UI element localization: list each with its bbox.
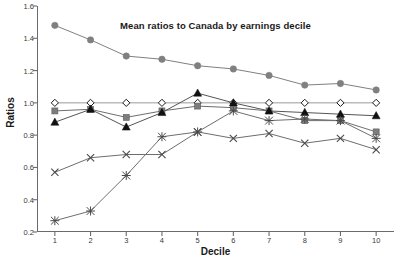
data-point-diamond-open [123,99,130,106]
data-point-circle-filled [123,53,129,59]
x-tick-label: 7 [257,236,281,245]
data-point-diamond-open [158,99,165,106]
data-point-square-filled [195,103,201,109]
series-markers-black-triangle-series [51,89,380,130]
data-point-cross-x [373,146,380,153]
chart-canvas [0,0,406,265]
data-point-diamond-open [337,99,344,106]
x-tick-label: 2 [79,236,103,245]
data-point-cross-x [51,169,58,176]
data-point-triangle-filled [194,89,202,96]
x-tick-label: 6 [221,236,245,245]
data-point-triangle-filled [122,123,130,130]
series-markers-gray-circle-series [52,22,380,93]
data-point-circle-filled [159,56,165,62]
data-point-circle-filled [337,80,343,86]
data-point-circle-filled [302,82,308,88]
data-point-circle-filled [87,37,93,43]
data-point-circle-filled [266,72,272,78]
x-tick-label: 10 [364,236,388,245]
data-point-asterisk [229,106,238,115]
x-tick-label: 8 [293,236,317,245]
x-tick-label: 1 [43,236,67,245]
data-point-asterisk [50,216,59,225]
data-point-diamond-open [373,99,380,106]
series-line-gray-circle-series [55,25,376,90]
data-point-diamond-open [265,99,272,106]
series-markers-asterisk-series [50,106,380,225]
data-point-diamond-open [301,99,308,106]
data-point-asterisk [265,116,274,125]
data-point-asterisk [300,115,309,124]
x-tick-label: 4 [150,236,174,245]
x-tick-label: 9 [328,236,352,245]
chart-title: Mean ratios to Canada by earnings decile [37,20,394,31]
data-point-asterisk [336,116,345,125]
data-point-square-filled [52,108,58,114]
series-markers-gray-square-series [52,103,379,135]
x-tick-label: 3 [114,236,138,245]
data-point-diamond-open [51,99,58,106]
series-line-cross-series [55,132,376,172]
x-tick-label: 5 [186,236,210,245]
chart-container: 0.20.40.60.81.01.21.41.6 Mean ratios to … [0,0,406,265]
data-point-circle-filled [373,87,379,93]
data-point-square-filled [123,114,129,120]
data-point-asterisk [122,171,131,180]
data-point-circle-filled [230,66,236,72]
series-line-gray-square-series [55,106,376,132]
data-point-asterisk [193,127,202,136]
y-axis-title: Ratios [5,83,16,143]
x-axis-title: Decile [37,246,394,257]
data-point-asterisk [157,132,166,141]
data-point-circle-filled [194,63,200,69]
series-line-asterisk-series [55,111,376,221]
data-point-asterisk [372,134,381,143]
data-point-asterisk [86,207,95,216]
